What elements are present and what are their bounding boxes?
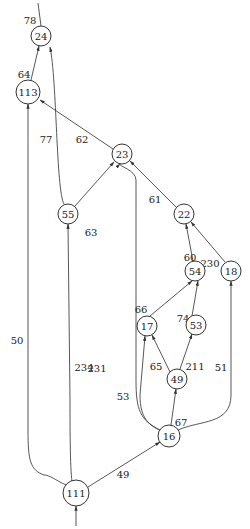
- node-label: 49: [171, 374, 184, 385]
- edge-111-to-16: [88, 442, 160, 487]
- node-label: 16: [163, 431, 176, 442]
- node-label: 17: [141, 321, 154, 332]
- node-53: 53: [186, 315, 206, 335]
- edge-label: 66: [135, 304, 148, 315]
- node-label: 18: [225, 266, 238, 277]
- edge-label: 49: [117, 469, 130, 480]
- node-18: 18: [221, 261, 241, 281]
- node-55: 55: [58, 204, 78, 224]
- edge-17-to-54: [150, 281, 192, 316]
- edge-55-to-24: [50, 47, 64, 204]
- edge-label: 78: [24, 15, 37, 26]
- node-17: 17: [137, 316, 157, 336]
- edge-111-to-113: [28, 104, 66, 485]
- edge-24-to-out: [38, 3, 41, 26]
- edge-label: 211: [185, 361, 204, 372]
- edge-label: 50: [11, 335, 24, 346]
- edge-53-to-54: [192, 281, 198, 316]
- node-label: 22: [178, 209, 191, 220]
- edge-label: 63: [85, 227, 98, 238]
- edge-label: 77: [40, 134, 53, 145]
- node-24: 24: [31, 26, 51, 46]
- edge-55-to-23: [75, 162, 114, 206]
- edge-113-to-24: [31, 46, 39, 80]
- node-label: 24: [35, 31, 48, 42]
- node-label: 23: [116, 149, 129, 160]
- node-54: 54: [185, 261, 205, 281]
- node-23: 23: [112, 144, 132, 164]
- edge-label: 65: [150, 361, 163, 372]
- node-label: 54: [189, 266, 202, 277]
- node-16: 16: [158, 425, 180, 447]
- edge-label: 51: [215, 362, 228, 373]
- node-label: 53: [190, 320, 203, 331]
- edge-111-to-55: [68, 224, 72, 481]
- edge-label: 234: [74, 362, 93, 373]
- node-113: 113: [16, 80, 40, 104]
- edge-label: 53: [117, 391, 130, 402]
- node-label: 111: [66, 488, 85, 499]
- node-49: 49: [167, 369, 187, 389]
- graph-diagram: 7864776263616023023166746521151536750234…: [0, 0, 250, 529]
- node-22: 22: [174, 204, 194, 224]
- edge-label: 62: [76, 134, 89, 145]
- edge-label: 67: [175, 417, 188, 428]
- node-label: 55: [62, 209, 75, 220]
- node-111: 111: [63, 480, 89, 506]
- edge-label: 64: [18, 69, 31, 80]
- edge-16-to-18: [178, 281, 231, 430]
- edge-label: 61: [149, 194, 162, 205]
- node-label: 113: [18, 87, 37, 98]
